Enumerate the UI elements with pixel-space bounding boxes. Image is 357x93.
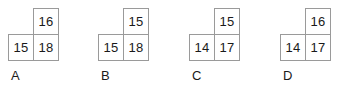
- cell-bottom-left-a: 15: [8, 34, 34, 61]
- cell-bottom-left-c: 14: [189, 34, 215, 61]
- answer-options-container: 16 15 18 A 15 15 18 B 15 14 17 C 16 14 1…: [0, 0, 357, 93]
- option-label-c: C: [192, 68, 201, 84]
- cell-top-right-b: 15: [123, 8, 149, 35]
- cell-bottom-left-d: 14: [280, 34, 306, 61]
- option-label-b: B: [101, 68, 110, 84]
- cell-bottom-left-b: 15: [98, 34, 124, 61]
- figure-b: 15 15 18: [98, 8, 149, 62]
- answer-option-c[interactable]: 15 14 17 C: [189, 0, 240, 54]
- cell-top-right-d: 16: [305, 8, 331, 35]
- cell-bottom-right-a: 18: [33, 34, 59, 61]
- cell-bottom-right-c: 17: [214, 34, 240, 61]
- option-label-d: D: [283, 68, 292, 84]
- figure-c: 15 14 17: [189, 8, 240, 62]
- cell-top-right-a: 16: [33, 8, 59, 35]
- answer-option-b[interactable]: 15 15 18 B: [98, 0, 149, 54]
- answer-option-a[interactable]: 16 15 18 A: [8, 0, 59, 54]
- option-label-a: A: [11, 68, 20, 84]
- figure-d: 16 14 17: [280, 8, 331, 62]
- cell-top-right-c: 15: [214, 8, 240, 35]
- answer-option-d[interactable]: 16 14 17 D: [280, 0, 331, 54]
- cell-bottom-right-b: 18: [123, 34, 149, 61]
- figure-a: 16 15 18: [8, 8, 59, 62]
- cell-bottom-right-d: 17: [305, 34, 331, 61]
